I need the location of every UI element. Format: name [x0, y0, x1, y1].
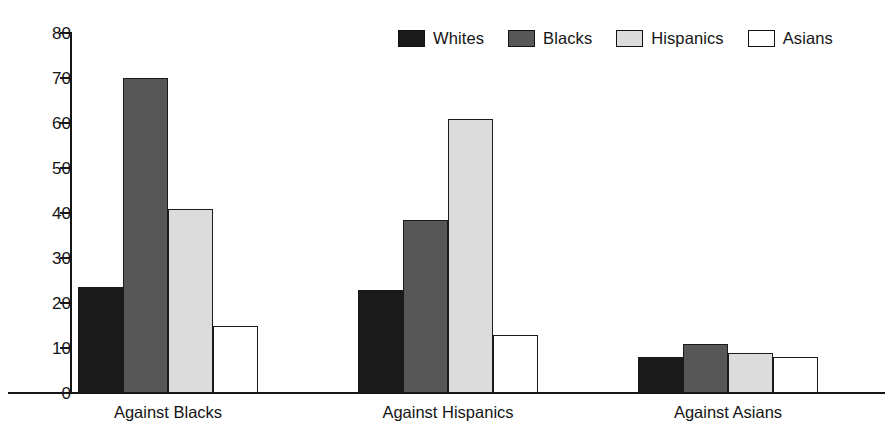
- bar-whites-against-hispanics: [358, 290, 403, 394]
- bar-hispanics-against-blacks: [168, 209, 213, 394]
- x-axis-label-against-blacks: Against Blacks: [78, 404, 258, 421]
- bar-hispanics-against-hispanics: [448, 119, 493, 394]
- bar-hispanics-against-asians: [728, 353, 773, 394]
- bar-asians-against-hispanics: [493, 335, 538, 394]
- bar-whites-against-asians: [638, 357, 683, 393]
- x-axis-label-against-asians: Against Asians: [638, 404, 818, 421]
- bar-blacks-against-asians: [683, 344, 728, 394]
- bar-blacks-against-hispanics: [403, 220, 448, 393]
- bar-chart: Whites Blacks Hispanics Asians 010203040…: [0, 0, 894, 448]
- bar-asians-against-blacks: [213, 326, 258, 394]
- x-axis-label-against-hispanics: Against Hispanics: [358, 404, 538, 421]
- bar-blacks-against-blacks: [123, 78, 168, 393]
- bar-whites-against-blacks: [78, 287, 123, 393]
- plot-area: 01020304050607080 Against BlacksAgainst …: [0, 0, 894, 448]
- bars-layer: [0, 0, 894, 393]
- bar-asians-against-asians: [773, 357, 818, 393]
